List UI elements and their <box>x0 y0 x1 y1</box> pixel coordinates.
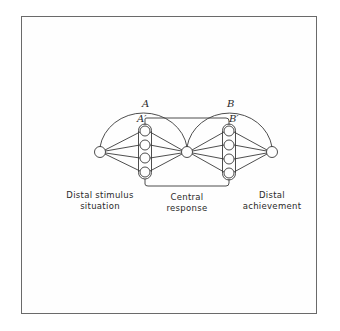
cue-node <box>224 168 234 178</box>
cue-node <box>140 167 150 177</box>
cue-node <box>224 140 234 150</box>
fan-left-to-a <box>105 132 140 171</box>
lens-model-diagram: A A′ B B′ Distal stimulus situation Cent… <box>0 0 340 331</box>
node-distal-achievement <box>267 147 278 158</box>
cue-node <box>140 153 150 163</box>
cue-node <box>224 126 234 136</box>
label-distal-achievement-1: Distal <box>259 190 285 200</box>
label-central-1: Central <box>170 192 203 202</box>
connector-bottom <box>145 179 229 186</box>
cue-node <box>140 126 150 136</box>
label-distal-achievement-2: achievement <box>243 201 302 211</box>
fan-a-to-central <box>150 132 182 171</box>
label-central-2: response <box>166 203 207 213</box>
label-distal-stimulus-2: situation <box>80 201 120 211</box>
label-a-prime: A′ <box>136 113 147 124</box>
label-b: B <box>226 98 234 109</box>
cue-node <box>224 154 234 164</box>
fan-b-to-right <box>234 132 267 172</box>
node-distal-stimulus <box>95 147 106 158</box>
connector-top <box>145 118 229 125</box>
label-distal-stimulus-1: Distal stimulus <box>66 190 134 200</box>
fan-central-to-b <box>192 132 224 172</box>
cue-node <box>140 140 150 150</box>
label-a: A <box>141 98 149 109</box>
node-central-response <box>182 147 193 158</box>
label-b-prime: B′ <box>228 113 239 124</box>
